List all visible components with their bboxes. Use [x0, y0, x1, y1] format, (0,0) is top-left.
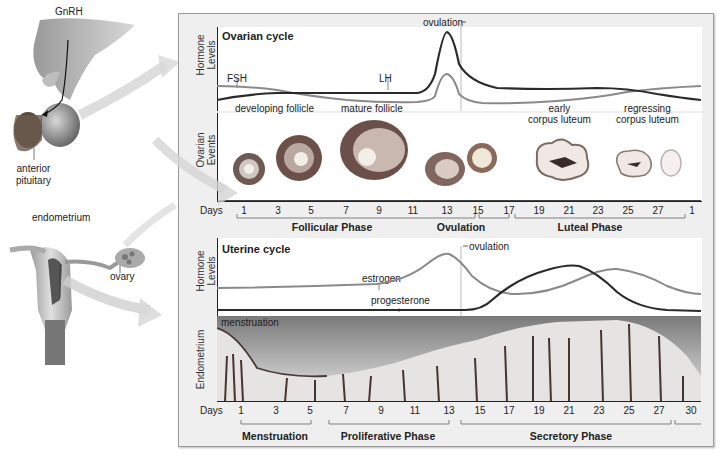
- secretory-phase-label: Secretory Phase: [530, 430, 612, 442]
- follicular-phase-label: Follicular Phase: [292, 221, 373, 233]
- mature-follicle: [340, 120, 408, 180]
- menstruation-phase-label: Menstruation: [242, 430, 308, 442]
- gnrh-label: GnRH: [55, 6, 83, 17]
- ovary-label: ovary: [110, 271, 134, 282]
- endometrium-illustration: [217, 316, 701, 402]
- endometrium-label: endometrium: [32, 212, 90, 223]
- uterine-hormone-curves: [217, 238, 701, 316]
- luteal-phase-label: Luteal Phase: [558, 221, 623, 233]
- ovulation-phase-label: Ovulation: [437, 221, 485, 233]
- endometrium-ylabel: Endometrium: [195, 325, 206, 395]
- ovarian-hormone-curves: [217, 14, 701, 111]
- early-corpus-luteum: [537, 139, 588, 180]
- regressing-corpus-luteum: [617, 150, 681, 177]
- menstrual-cycle-panel: Hormone Levels Ovarian cycle FSH LH ovul…: [178, 13, 714, 447]
- developing-follicle-medium: [276, 135, 322, 181]
- anterior-pituitary-label: anterior pituitary: [16, 163, 51, 187]
- proliferative-phase-label: Proliferative Phase: [341, 430, 436, 442]
- follicle-illustrations: [217, 113, 701, 201]
- ruptured-follicle: [425, 152, 465, 186]
- connector-arrows: [150, 40, 240, 320]
- released-ovum: [467, 143, 497, 173]
